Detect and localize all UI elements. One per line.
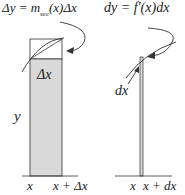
right-width-label: dx	[115, 83, 128, 99]
left-x-tick-right: x + Δx	[53, 178, 87, 194]
left-rect-label: Δx	[37, 67, 51, 83]
diagram-canvas	[0, 0, 185, 195]
dx-pointer-line	[128, 70, 137, 84]
right-panel-graphics	[115, 28, 176, 176]
left-formula-tail: (x)Δx	[49, 0, 77, 15]
right-strip-gray	[140, 57, 143, 176]
right-x-tick-left: x	[130, 178, 136, 194]
left-arrow-curve	[60, 22, 85, 51]
left-arrowhead-icon	[66, 47, 74, 54]
right-formula: dy = f′(x)dx	[104, 0, 169, 16]
left-height-label: y	[14, 108, 21, 125]
left-formula-main: Δy = m	[2, 0, 40, 15]
left-panel-graphics	[22, 22, 85, 176]
left-formula: Δy = msec(x)Δx	[2, 0, 77, 18]
right-arrow-curve	[148, 28, 173, 56]
left-x-tick-left: x	[27, 178, 33, 194]
right-x-tick-right: x + dx	[143, 178, 176, 194]
left-formula-subscript: sec	[40, 10, 49, 18]
